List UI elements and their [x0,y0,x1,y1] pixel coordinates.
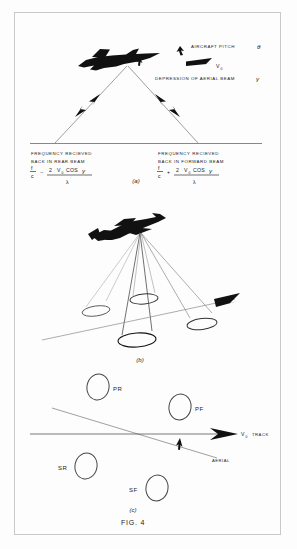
velocity-subscript-a: 0 [221,67,223,71]
rear-beam-text-line2: BACK IN REAR BEAM [31,159,85,164]
track-velocity-subscript: 0 [246,435,248,439]
spot-label-SR: SR [58,465,68,471]
forward-velocity-symbol: V [184,167,188,173]
forward-f-numerator: f [158,165,160,171]
forward-beam-text-line1: FREQUENCY RECIEVED [158,151,219,156]
velocity-symbol-a: V [216,63,220,69]
aircraft-pitch-label: AIRCRAFT PITCH [191,44,235,49]
ground-track-line-b [42,299,235,340]
rear-beam-line [55,66,127,143]
rear-beam-arrow-down [89,94,100,106]
figure-page: AIRCRAFT PITCH θ V 0 DEPRESSION OF AERIA… [0,0,297,549]
drift-angle-arrow [176,438,183,450]
rear-velocity-symbol: V [57,167,61,173]
pitch-symbol: θ [257,43,261,50]
panel-a-label: (a) [132,178,139,184]
spot-PF [167,392,193,421]
rear-operator: − [40,169,43,175]
spot-PR [85,372,112,402]
rear-coefficient: 2 [49,167,52,173]
figure-4-diagram: AIRCRAFT PITCH θ V 0 DEPRESSION OF AERIA… [0,0,297,549]
spot-label-SF: SF [129,487,138,493]
depression-label: DEPRESSION OF AERIAL BEAM [155,76,235,81]
cone1-edge-left [86,233,140,307]
aerial-label: AERIAL [212,458,230,463]
panel-c-label: (c) [130,507,137,513]
forward-gamma: γ [209,167,213,174]
rear-cos: COS [66,167,78,173]
cone2-footprint [118,332,157,349]
aerial-line [52,408,217,458]
spot-SF [144,473,170,502]
rear-beam-text-line1: FREQUENCY RECIEVED [31,151,92,156]
rear-c-denominator: c [31,173,34,179]
cone4-footprint [186,317,217,332]
beam-cone-rear-left [81,233,140,318]
forward-cos: COS [193,167,205,173]
panel-b-label: (b) [136,357,143,363]
cone1-edge-right [106,233,140,301]
forward-beam-formula: FREQUENCY RECIEVED BACK IN FORWARD BEAM … [157,151,224,185]
rear-gamma: γ [82,167,86,174]
spot-label-PR: PR [113,386,123,392]
forward-coefficient: 2 [176,167,179,173]
pitch-angle-arrow [177,46,185,56]
forward-velocity-subscript: 0 [189,171,191,175]
figure-border [15,13,281,535]
track-arrow-b [214,293,240,307]
forward-beam-text-line2: BACK IN FORWARD BEAM [158,159,224,164]
cone1-footprint [81,304,110,318]
figure-caption: FIG. 4 [121,519,145,526]
cone3-footprint [130,293,159,305]
track-velocity-symbol: V [241,431,245,437]
forward-beam-arrow-down [155,94,166,106]
cone4-edge-right [141,233,212,313]
rear-velocity-subscript: 0 [62,171,64,175]
cone2-edge-right [140,233,152,331]
aircraft-body [78,49,160,71]
rear-f-numerator: f [31,165,33,171]
beam-cone-rear-centre [118,233,157,348]
rear-beam-formula: FREQUENCY RECIEVED BACK IN REAR BEAM f c… [30,151,92,185]
spot-label-PF: PF [195,406,204,412]
panel-c: PR PF SR SF V 0 TRACK AERIAL (c) [30,372,269,513]
aircraft-side-silhouette [78,49,160,71]
forward-lambda: λ [193,179,196,185]
cone3-edge-right [141,233,155,293]
forward-operator: + [167,169,170,175]
rear-lambda: λ [66,179,69,185]
depression-symbol: γ [256,75,260,82]
panel-b: (b) [42,213,240,363]
spot-SR [73,451,100,481]
track-label: TRACK [252,432,269,437]
footprint-spots: PR PF SR SF [58,372,204,503]
panel-a: AIRCRAFT PITCH θ V 0 DEPRESSION OF AERIA… [30,43,262,185]
velocity-vector-arrow-a [186,58,212,66]
aircraft-3q-silhouette [88,213,166,241]
forward-c-denominator: c [158,173,161,179]
cone4-edge-left [141,233,190,318]
forward-beam-arrow-up [169,106,180,118]
